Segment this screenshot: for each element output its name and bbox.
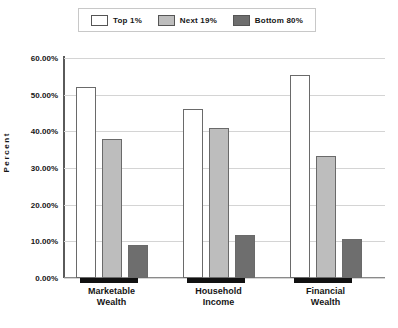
category-label: MarketableWealth (60, 286, 164, 308)
bar-bottom-80-financial-wealth (342, 239, 362, 278)
gridline (64, 58, 385, 59)
category-label: HouseholdIncome (167, 286, 271, 308)
category-label: FinancialWealth (274, 286, 378, 308)
bar-top-1-financial-wealth (290, 75, 310, 278)
bar-top-1-household-income (183, 109, 203, 278)
category-label-line: Financial (274, 286, 378, 297)
y-tick-label: 20.00% (10, 201, 58, 210)
category-label-line: Wealth (274, 297, 378, 308)
bar-next-19-financial-wealth (316, 156, 336, 278)
bar-bottom-80-marketable-wealth (128, 245, 148, 278)
category-label-line: Household (167, 286, 271, 297)
category-label-line: Income (167, 297, 271, 308)
category-tick-marker (80, 278, 138, 283)
gridline (64, 95, 385, 96)
bar-next-19-marketable-wealth (102, 139, 122, 278)
category-label-line: Marketable (60, 286, 164, 297)
chart-container: Top 1% Next 19% Bottom 80% Percent 60.00… (0, 0, 398, 328)
bar-top-1-marketable-wealth (76, 87, 96, 278)
plot-area: 60.00%50.00%40.00%30.00%20.00%10.00%0.00… (0, 0, 398, 328)
bar-next-19-household-income (209, 128, 229, 278)
y-tick-label: 0.00% (10, 274, 58, 283)
y-tick-label: 10.00% (10, 237, 58, 246)
category-tick-marker (294, 278, 352, 283)
y-tick-label: 40.00% (10, 127, 58, 136)
y-tick-label: 50.00% (10, 91, 58, 100)
y-tick-label: 60.00% (10, 54, 58, 63)
plot-inner (64, 58, 385, 278)
bar-bottom-80-household-income (235, 235, 255, 278)
y-tick-label: 30.00% (10, 164, 58, 173)
category-label-line: Wealth (60, 297, 164, 308)
category-tick-marker (187, 278, 245, 283)
